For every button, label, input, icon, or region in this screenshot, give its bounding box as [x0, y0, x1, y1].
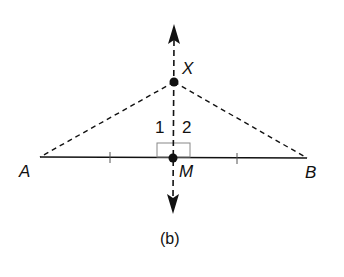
perpendicular-bisector: [173, 40, 174, 200]
label-b: B: [305, 163, 316, 182]
label-angle-1: 1: [155, 118, 164, 137]
arrow-down-icon: [167, 194, 179, 214]
point-m: [169, 154, 178, 163]
segment-xa: [40, 82, 174, 157]
figure-caption: (b): [160, 230, 180, 247]
segment-xb: [174, 82, 307, 158]
diagram-canvas: X A M B 1 2 (b): [0, 0, 344, 277]
label-m: M: [179, 162, 194, 181]
label-x: X: [181, 59, 194, 78]
label-a: A: [18, 162, 30, 181]
point-x: [170, 78, 179, 87]
label-angle-2: 2: [182, 118, 191, 137]
